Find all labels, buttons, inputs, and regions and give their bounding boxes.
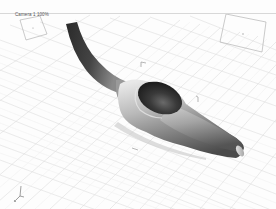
viewport-canvas[interactable] bbox=[0, 0, 276, 209]
axis-x-icon bbox=[16, 196, 20, 200]
axis-y-icon bbox=[20, 196, 24, 197]
mesh-tail bbox=[66, 22, 122, 94]
frame-center-dot bbox=[32, 27, 33, 28]
frame-center-dot bbox=[242, 33, 243, 34]
3d-viewport[interactable]: Camera 1 100% bbox=[0, 0, 276, 209]
camera-frame-top-left[interactable] bbox=[20, 16, 47, 40]
axis-z-icon bbox=[20, 186, 21, 196]
viewport-label[interactable]: Camera 1 100% bbox=[15, 12, 49, 17]
